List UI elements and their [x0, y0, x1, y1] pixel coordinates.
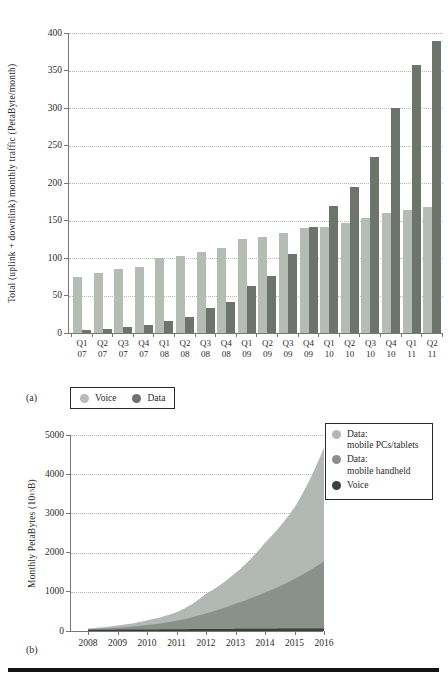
x-axis-tick	[236, 333, 237, 337]
voice-bar	[238, 239, 247, 333]
y-axis-tick	[64, 333, 68, 334]
y-tick-label: 150	[31, 216, 62, 226]
x-tick-label: Q408	[215, 338, 237, 361]
y-tick-label: 350	[31, 66, 62, 76]
year-label-line: 11	[401, 349, 423, 360]
x-axis-tick	[277, 333, 278, 337]
x-axis-tick	[359, 333, 360, 337]
x-axis-tick	[295, 631, 296, 635]
voice-bar	[300, 228, 309, 333]
y-tick-label: 200	[31, 179, 62, 189]
quarter-label-line: Q3	[112, 338, 134, 349]
year-label-line: 08	[174, 349, 196, 360]
x-axis-tick	[339, 333, 340, 337]
voice-bar	[423, 207, 432, 333]
quarter-label-line: Q2	[174, 338, 196, 349]
x-axis-tick	[215, 333, 216, 337]
x-tick-label: 2012	[191, 638, 221, 648]
year-label-line: 09	[298, 349, 320, 360]
legend-item: Data:mobile PCs/tablets	[332, 429, 426, 451]
y-tick-label: 100	[31, 254, 62, 264]
bottom-divider-rule	[8, 668, 439, 672]
x-axis-tick	[380, 333, 381, 337]
voice-bar	[279, 233, 288, 334]
data-bar	[164, 321, 173, 333]
data-bar	[309, 227, 318, 334]
data-bar	[247, 286, 256, 333]
voice-bar	[114, 269, 123, 333]
x-tick-label: Q309	[277, 338, 299, 361]
quarter-label-line: Q4	[215, 338, 237, 349]
x-tick-label: Q111	[401, 338, 423, 361]
area-chart-ylabel: Monthly PetaBytes (1015 B)	[24, 435, 40, 632]
data-bar	[267, 276, 276, 333]
legend-swatch-circle	[332, 430, 341, 439]
legend-swatch-circle	[332, 455, 341, 464]
data-bar	[185, 317, 194, 333]
legend-label-line: mobile PCs/tablets	[347, 440, 419, 451]
y-axis-tick	[64, 295, 68, 296]
legend-item: Voice	[332, 480, 426, 491]
quarter-label-line: Q1	[236, 338, 258, 349]
voice-bar	[361, 218, 370, 333]
legend-label-line: Data:	[347, 454, 411, 465]
year-label-line: 08	[153, 349, 175, 360]
x-tick-label: Q308	[195, 338, 217, 361]
x-tick-label: Q108	[153, 338, 175, 361]
year-label-line: 07	[71, 349, 93, 360]
legend-item: Data:mobile handheld	[332, 454, 426, 476]
data-bar	[103, 329, 112, 334]
voice-bar	[403, 210, 412, 333]
gridline-250	[69, 146, 443, 147]
year-label-line: 11	[421, 349, 443, 360]
x-tick-label: Q107	[71, 338, 93, 361]
y-axis-tick	[64, 145, 68, 146]
y-axis-tick	[66, 435, 70, 436]
x-axis-tick	[324, 631, 325, 635]
area-legend: Data:mobile PCs/tabletsData:mobile handh…	[325, 423, 433, 500]
x-tick-label: 2014	[250, 638, 280, 648]
bar-chart-plot: 050100150200250300350400Q107Q207Q307Q407…	[68, 33, 443, 334]
x-tick-label: 2015	[280, 638, 310, 648]
x-tick-label: Q208	[174, 338, 196, 361]
year-label-line: 09	[236, 349, 258, 360]
y-axis-tick	[64, 183, 68, 184]
y-tick-label: 250	[31, 141, 62, 151]
data-bar	[370, 157, 379, 333]
x-axis-tick	[318, 333, 319, 337]
y-axis-tick	[66, 631, 70, 632]
legend-label: Data:mobile PCs/tablets	[347, 429, 419, 451]
legend-label-line: Voice	[347, 480, 368, 491]
data-bar	[226, 302, 235, 334]
y-axis-tick	[66, 591, 70, 592]
y-tick-label: 0	[31, 329, 62, 339]
legend-swatch-circle	[332, 481, 341, 490]
bar-legend: VoiceData	[70, 387, 175, 409]
quarter-label-line: Q4	[133, 338, 155, 349]
y-tick-label: 50	[31, 291, 62, 301]
voice-bar	[217, 248, 226, 333]
x-axis-tick	[133, 333, 134, 337]
x-tick-label: Q407	[133, 338, 155, 361]
x-axis-tick	[206, 631, 207, 635]
year-label-line: 07	[92, 349, 114, 360]
year-label-line: 07	[112, 349, 134, 360]
area-ylabel-suffix: B)	[27, 479, 37, 489]
x-tick-label: 2013	[221, 638, 251, 648]
y-axis-tick	[64, 70, 68, 71]
gridline-300	[69, 108, 443, 109]
quarter-label-line: Q2	[92, 338, 114, 349]
quarter-label-line: Q2	[421, 338, 443, 349]
x-axis-tick	[88, 631, 89, 635]
quarter-label-line: Q1	[71, 338, 93, 349]
voice-bar	[382, 213, 391, 333]
y-axis-tick	[64, 220, 68, 221]
x-tick-label: Q207	[92, 338, 114, 361]
x-axis-tick	[147, 631, 148, 635]
legend-label: Data:mobile handheld	[347, 454, 411, 476]
quarter-label-line: Q4	[380, 338, 402, 349]
voice-bar	[94, 273, 103, 333]
y-axis-tick	[66, 474, 70, 475]
bar-chart-ylabel: Total (uplink + downlink) monthly traffi…	[4, 33, 20, 334]
legend-label-line: mobile handheld	[347, 466, 411, 477]
